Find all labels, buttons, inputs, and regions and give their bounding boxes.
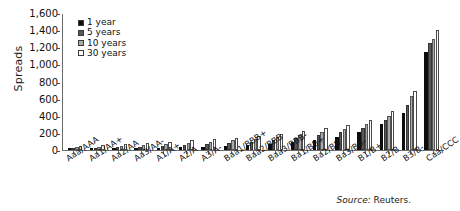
bar bbox=[436, 30, 439, 150]
y-axis-tick-mark bbox=[57, 65, 60, 66]
bar-group bbox=[287, 14, 309, 150]
x-axis-tick-labels: Aaa/AAAAa1/AA+Aa2/AAAa3/AA-A1/A+A2/AA3/A… bbox=[62, 152, 444, 198]
bar-group bbox=[131, 14, 153, 150]
legend-item: 5 years bbox=[78, 28, 126, 38]
legend-item: 10 years bbox=[78, 38, 126, 48]
y-axis-tick-label: 400 bbox=[39, 112, 58, 122]
y-axis-tick-mark bbox=[57, 83, 60, 84]
y-axis-tick-mark bbox=[57, 100, 60, 101]
legend-label: 30 years bbox=[87, 49, 126, 58]
legend-swatch-icon bbox=[78, 30, 84, 36]
bar-group bbox=[309, 14, 331, 150]
y-axis-tick-label: 200 bbox=[39, 129, 58, 139]
legend-swatch-icon bbox=[78, 50, 84, 56]
source-value: Reuters. bbox=[374, 195, 411, 205]
bar-group bbox=[398, 14, 420, 150]
y-axis-tick-mark bbox=[57, 14, 60, 15]
y-axis-tick-mark bbox=[57, 117, 60, 118]
legend-swatch-icon bbox=[78, 40, 84, 46]
y-axis-tick-mark bbox=[57, 48, 60, 49]
bar-group bbox=[153, 14, 175, 150]
y-axis-tick-label: 600 bbox=[39, 95, 58, 105]
legend-label: 10 years bbox=[87, 39, 126, 48]
source-note: Source: Reuters. bbox=[337, 195, 411, 205]
y-axis-tick-label: 1,000 bbox=[29, 60, 58, 70]
legend-item: 1 year bbox=[78, 18, 126, 28]
bar-group bbox=[175, 14, 197, 150]
bar-group bbox=[220, 14, 242, 150]
bar bbox=[413, 91, 416, 150]
y-axis-tick-label: 1,200 bbox=[29, 43, 58, 53]
bar-group bbox=[421, 14, 443, 150]
bar-group bbox=[332, 14, 354, 150]
y-axis-tick-label: 800 bbox=[39, 78, 58, 88]
y-axis-tick-mark bbox=[57, 31, 60, 32]
chart-legend: 1 year5 years10 years30 years bbox=[78, 18, 126, 59]
bar-group bbox=[265, 14, 287, 150]
legend-label: 5 years bbox=[87, 28, 120, 37]
y-axis-tick-label: 1,400 bbox=[29, 26, 58, 36]
source-prefix: Source: bbox=[337, 195, 371, 205]
legend-label: 1 year bbox=[87, 18, 116, 27]
bar-group bbox=[376, 14, 398, 150]
bar-group bbox=[198, 14, 220, 150]
y-axis-tick-labels: 02004006008001,0001,2001,4001,600 bbox=[8, 0, 60, 211]
y-axis-tick-mark bbox=[57, 151, 60, 152]
y-axis-tick-mark bbox=[57, 134, 60, 135]
legend-item: 30 years bbox=[78, 49, 126, 59]
y-axis-tick-label: 1,600 bbox=[29, 9, 58, 19]
legend-swatch-icon bbox=[78, 20, 84, 26]
bar-group bbox=[354, 14, 376, 150]
